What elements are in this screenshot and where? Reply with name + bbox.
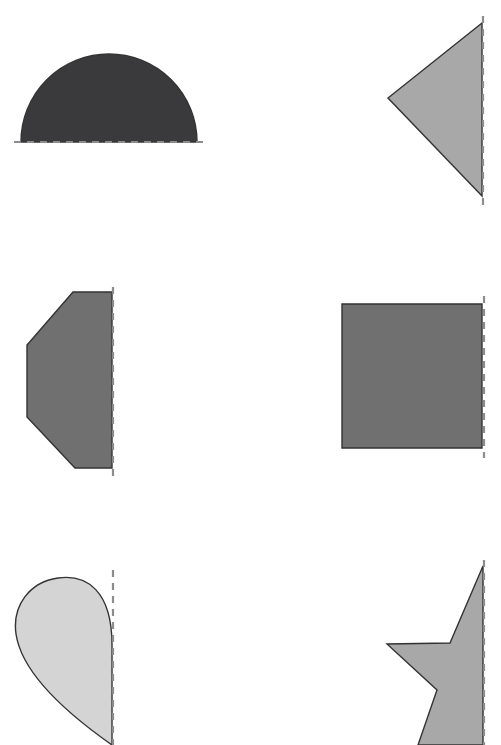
shape-figure-star	[387, 560, 484, 745]
shape-figure-triangle	[388, 16, 483, 206]
half-semicircle-path	[21, 54, 197, 142]
shape-figure-octagon	[27, 287, 113, 478]
half-heart-path	[15, 577, 112, 745]
half-octagon-path	[27, 292, 112, 468]
shape-figure-rectangle	[342, 296, 484, 458]
shape-layer	[0, 0, 501, 745]
half-rectangle-path	[342, 304, 482, 448]
worksheet-canvas	[0, 0, 501, 745]
shape-figure-heart	[15, 570, 113, 745]
half-triangle-path	[388, 23, 482, 196]
half-star-path	[387, 566, 483, 745]
shape-figure-semicircle	[14, 54, 205, 142]
